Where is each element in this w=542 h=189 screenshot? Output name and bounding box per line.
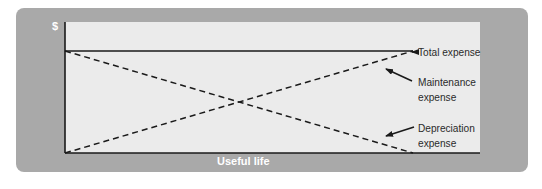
maintenance-expense-label: Maintenance expense bbox=[418, 75, 476, 105]
maintenance-line1: Maintenance bbox=[418, 75, 476, 90]
depreciation-line1: Depreciation bbox=[418, 121, 475, 136]
maintenance-line2: expense bbox=[418, 90, 476, 105]
total-expense-label: Total expense bbox=[418, 45, 480, 60]
depreciation-arrow-icon bbox=[386, 127, 414, 136]
depreciation-line2: expense bbox=[418, 136, 475, 151]
maintenance-arrow-icon bbox=[386, 69, 412, 81]
y-axis-label: $ bbox=[52, 20, 58, 32]
total-expense-text: Total expense bbox=[418, 46, 480, 58]
x-axis-label: Useful life bbox=[217, 155, 270, 167]
depreciation-expense-label: Depreciation expense bbox=[418, 121, 475, 151]
